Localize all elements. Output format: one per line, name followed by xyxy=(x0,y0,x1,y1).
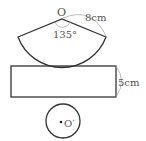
circle-center-label: O′ xyxy=(64,118,75,129)
circle-shape xyxy=(46,104,80,138)
sector-radius-label: 8cm xyxy=(85,12,107,23)
rectangle-shape xyxy=(11,66,116,97)
circle-center-dot xyxy=(60,121,63,124)
sector: O 8cm 135° xyxy=(18,6,107,67)
angle-arc xyxy=(55,22,70,27)
net-diagram: O 8cm 135° 5cm O′ xyxy=(0,0,146,141)
rectangle: 5cm xyxy=(11,66,140,97)
sector-angle-label: 135° xyxy=(53,29,77,40)
rectangle-height-label: 5cm xyxy=(118,77,140,88)
sector-shape xyxy=(18,19,106,67)
sector-center-label: O xyxy=(57,6,66,19)
base-circle: O′ xyxy=(46,104,80,138)
